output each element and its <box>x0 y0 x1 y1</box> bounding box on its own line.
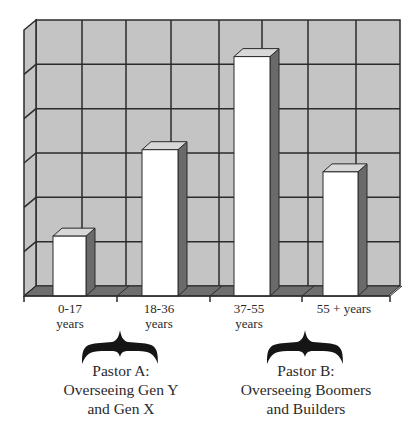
annotation-pastor-b: Pastor B: Overseeing Boomers and Builder… <box>235 361 377 418</box>
bar-2 <box>234 49 279 296</box>
category-label-18-36: 18-36 years <box>134 301 184 331</box>
category-label-55-plus: 55 + years <box>304 301 384 316</box>
annotation-line: Overseeing Gen Y <box>56 380 186 399</box>
category-label-37-55: 37-55 years <box>229 301 269 331</box>
annotation-pastor-a: Pastor A: Overseeing Gen Y and Gen X <box>56 361 186 418</box>
label-line: years <box>46 316 94 331</box>
annotation-line: Overseeing Boomers <box>235 380 377 399</box>
label-line: 18-36 <box>134 301 184 316</box>
label-line: 37-55 <box>229 301 269 316</box>
label-line: years <box>229 316 269 331</box>
category-label-0-17: 0-17 years <box>46 301 94 331</box>
label-line: 0-17 <box>46 301 94 316</box>
annotation-line: Pastor B: <box>235 361 377 380</box>
bar-3 <box>323 164 367 296</box>
annotation-line: Pastor A: <box>56 361 186 380</box>
annotation-line: and Gen X <box>56 399 186 418</box>
bar-0 <box>53 228 95 296</box>
bar-chart <box>0 0 418 310</box>
bar-1 <box>142 142 187 296</box>
label-line: years <box>134 316 184 331</box>
annotation-line: and Builders <box>235 399 377 418</box>
label-line: 55 + years <box>304 301 384 316</box>
